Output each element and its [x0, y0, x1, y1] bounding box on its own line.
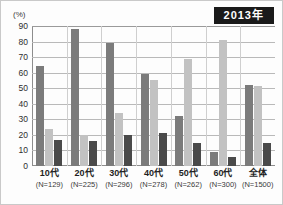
x-axis-labels: 10代(N=129)20代(N=225)30代(N=296)40代(N=278)…: [32, 168, 275, 190]
x-axis-category: 10代: [32, 168, 67, 179]
year-badge: 2013年: [214, 7, 274, 24]
bar-group: [101, 26, 136, 166]
x-axis-category: 全体: [240, 168, 275, 179]
x-axis-label: 30代(N=296): [101, 168, 136, 190]
x-axis-label: 全体(N=1500): [240, 168, 275, 190]
bar: [175, 116, 183, 166]
y-axis-tick-label: 70: [19, 52, 28, 62]
y-axis-unit-label: (%): [13, 10, 25, 19]
bar: [193, 143, 201, 166]
bar: [115, 113, 123, 166]
bar-group: [67, 26, 102, 166]
bar: [184, 59, 192, 166]
x-axis-label: 10代(N=129): [32, 168, 67, 190]
bar: [245, 85, 253, 166]
bar: [254, 86, 262, 166]
y-axis-tick-label: 90: [19, 21, 28, 31]
x-axis-category: 30代: [101, 168, 136, 179]
x-axis-sample-size: (N=262): [171, 180, 206, 189]
x-axis-label: 60代(N=300): [206, 168, 241, 190]
x-axis-label: 40代(N=278): [136, 168, 171, 190]
plot-area: 9080706050403020100: [32, 26, 275, 166]
y-axis-tick-label: 60: [19, 68, 28, 78]
y-axis-tick-label: 0: [23, 161, 28, 171]
bar: [89, 141, 97, 166]
bar-group: [240, 26, 275, 166]
y-axis-tick-label: 10: [19, 145, 28, 155]
bar: [54, 140, 62, 166]
bar: [159, 133, 167, 166]
bar: [80, 135, 88, 166]
bar: [71, 29, 79, 166]
bar: [150, 80, 158, 166]
bar-group: [32, 26, 67, 166]
bar: [219, 40, 227, 166]
x-axis-category: 50代: [171, 168, 206, 179]
x-axis-sample-size: (N=1500): [240, 180, 275, 189]
y-axis-tick-label: 40: [19, 99, 28, 109]
bar: [141, 74, 149, 166]
y-axis-tick-label: 30: [19, 114, 28, 124]
bar: [45, 129, 53, 166]
x-axis-sample-size: (N=296): [101, 180, 136, 189]
bar: [124, 135, 132, 166]
x-axis-sample-size: (N=300): [206, 180, 241, 189]
y-axis-tick-label: 80: [19, 37, 28, 47]
bar-group: [206, 26, 241, 166]
bar-chart-figure: (%) 2013年 9080706050403020100 10代(N=129)…: [0, 0, 283, 205]
y-axis-tick-label: 50: [19, 83, 28, 93]
bar: [228, 157, 236, 166]
bar-group: [136, 26, 171, 166]
bar-group: [171, 26, 206, 166]
x-axis-category: 20代: [67, 168, 102, 179]
x-axis-sample-size: (N=129): [32, 180, 67, 189]
x-axis-category: 60代: [206, 168, 241, 179]
bar: [210, 152, 218, 166]
bar: [36, 66, 44, 166]
x-axis-category: 40代: [136, 168, 171, 179]
x-axis-sample-size: (N=278): [136, 180, 171, 189]
bar: [263, 143, 271, 166]
x-axis-label: 20代(N=225): [67, 168, 102, 190]
x-axis-label: 50代(N=262): [171, 168, 206, 190]
x-axis-sample-size: (N=225): [67, 180, 102, 189]
bar-groups: [32, 26, 275, 166]
y-axis-tick-label: 20: [19, 130, 28, 140]
bar: [106, 43, 114, 166]
gridline: 0: [32, 166, 275, 167]
